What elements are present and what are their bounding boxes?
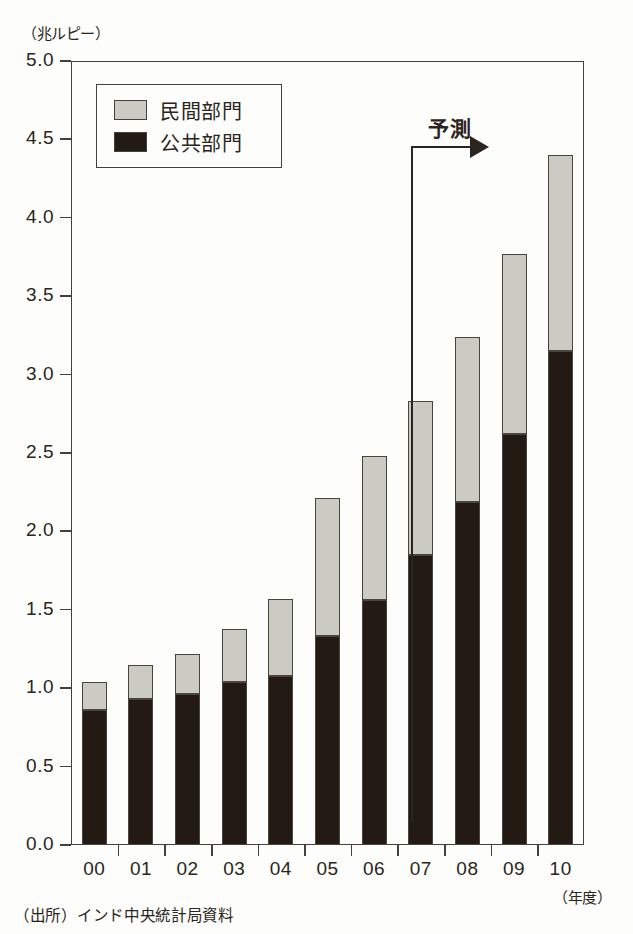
bar-segment-private	[502, 254, 527, 434]
y-axis-tick-mark	[60, 452, 71, 454]
x-axis-tick-label: 02	[165, 858, 211, 880]
bar-00	[82, 682, 107, 845]
x-axis-tick-label: 08	[444, 858, 490, 880]
x-axis-tick-mark	[258, 845, 260, 856]
x-axis-tick-mark	[444, 845, 446, 856]
bar-06	[362, 456, 387, 845]
bar-segment-private	[548, 155, 573, 351]
bar-03	[222, 629, 247, 845]
y-axis-tick-label: 5.0	[26, 49, 54, 71]
bar-segment-public	[82, 710, 107, 845]
forecast-horizontal-line	[411, 146, 473, 148]
y-axis-tick-mark	[60, 295, 71, 297]
legend-label-private: 民間部門	[160, 96, 242, 125]
y-axis-tick-mark	[60, 687, 71, 689]
x-axis-tick-mark	[164, 845, 166, 856]
x-axis-tick-label: 06	[351, 858, 397, 880]
y-axis-tick-mark	[60, 374, 71, 376]
y-axis-tick-mark	[60, 609, 71, 611]
x-axis-tick-mark	[397, 845, 399, 856]
x-axis-tick-label: 00	[71, 858, 117, 880]
bar-segment-public	[502, 434, 527, 845]
y-axis-tick-label: 4.5	[26, 127, 54, 149]
chart-legend: 民間部門 公共部門	[96, 84, 282, 168]
y-axis-tick-label: 1.5	[26, 598, 54, 620]
bar-segment-public	[315, 636, 340, 845]
x-axis-tick-label: 09	[491, 858, 537, 880]
x-axis-tick-label: 07	[398, 858, 444, 880]
forecast-annotation-label: 予測	[428, 112, 472, 142]
y-axis-tick-mark	[60, 60, 71, 62]
y-axis-tick-mark	[60, 844, 71, 846]
bar-05	[315, 498, 340, 845]
bar-segment-private	[82, 682, 107, 710]
legend-item-public: 公共部門	[114, 129, 242, 155]
bar-segment-public	[128, 699, 153, 845]
legend-item-private: 民間部門	[114, 97, 242, 123]
y-axis-tick-label: 4.0	[26, 206, 54, 228]
y-axis-tick-mark	[60, 766, 71, 768]
x-axis-unit-label: （年度）	[553, 886, 611, 907]
y-axis-tick-label: 3.5	[26, 284, 54, 306]
bar-segment-public	[268, 676, 293, 845]
y-axis-tick-label: 1.0	[26, 676, 54, 698]
x-axis-tick-mark	[211, 845, 213, 856]
x-axis-tick-label: 01	[118, 858, 164, 880]
x-axis-tick-mark	[491, 845, 493, 856]
bar-segment-public	[362, 600, 387, 845]
y-axis-tick-label: 0.5	[26, 755, 54, 777]
x-axis-tick-mark	[304, 845, 306, 856]
x-axis-tick-label: 10	[538, 858, 584, 880]
x-axis-tick-mark	[118, 845, 120, 856]
bar-segment-private	[175, 654, 200, 695]
y-axis-tick-label: 3.0	[26, 363, 54, 385]
bar-02	[175, 654, 200, 845]
bar-segment-private	[362, 456, 387, 600]
bar-01	[128, 665, 153, 845]
y-axis-tick-label: 2.0	[26, 519, 54, 541]
y-axis-tick-label: 0.0	[26, 833, 54, 855]
y-axis-tick-mark	[60, 138, 71, 140]
chart-figure: （兆ルピー） 0.00.51.01.52.02.53.03.54.04.55.0…	[0, 0, 633, 934]
bar-segment-private	[268, 599, 293, 676]
bar-segment-public	[548, 351, 573, 845]
source-note: （出所）インド中央統計局資料	[14, 903, 234, 925]
forecast-arrow-icon	[470, 136, 489, 158]
x-axis-tick-mark	[537, 845, 539, 856]
y-axis-tick-label: 2.5	[26, 441, 54, 463]
bar-segment-public	[175, 694, 200, 845]
legend-label-public: 公共部門	[160, 128, 242, 157]
bar-segment-private	[222, 629, 247, 682]
x-axis-tick-label: 05	[305, 858, 351, 880]
y-axis-unit-label: （兆ルピー）	[22, 22, 109, 43]
forecast-vertical-line	[411, 146, 413, 821]
bar-08	[455, 337, 480, 845]
bar-segment-private	[315, 498, 340, 636]
bar-segment-private	[455, 337, 480, 502]
legend-swatch-public-icon	[114, 132, 147, 152]
legend-swatch-private-icon	[114, 100, 147, 120]
x-axis-tick-label: 04	[258, 858, 304, 880]
bar-04	[268, 599, 293, 845]
y-axis-tick-mark	[60, 217, 71, 219]
bar-segment-public	[455, 502, 480, 845]
bar-segment-public	[222, 682, 247, 845]
x-axis-tick-mark	[351, 845, 353, 856]
bar-segment-private	[128, 665, 153, 699]
y-axis-tick-mark	[60, 530, 71, 532]
bar-10	[548, 155, 573, 845]
bar-09	[502, 254, 527, 845]
x-axis-tick-label: 03	[211, 858, 257, 880]
